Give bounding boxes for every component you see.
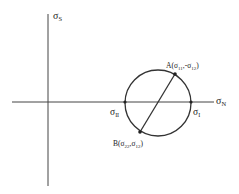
diameter-line bbox=[140, 74, 175, 132]
point-b-label: B(σ22,σ12) bbox=[113, 139, 143, 149]
sigma-ii-label: σII bbox=[110, 107, 119, 118]
point-b bbox=[138, 130, 142, 134]
point-a-label: A(σ11,-σ12) bbox=[166, 61, 199, 71]
point-a bbox=[173, 72, 177, 76]
point-sigma-ii bbox=[123, 100, 126, 103]
horizontal-axis-label: σN bbox=[216, 95, 226, 107]
mohr-circle-diagram: σS σN A(σ11,-σ12) B(σ22,σ12) σI σII bbox=[0, 0, 239, 194]
point-sigma-i bbox=[189, 100, 192, 103]
sigma-i-label: σI bbox=[193, 107, 200, 118]
vertical-axis-label: σS bbox=[53, 10, 62, 22]
